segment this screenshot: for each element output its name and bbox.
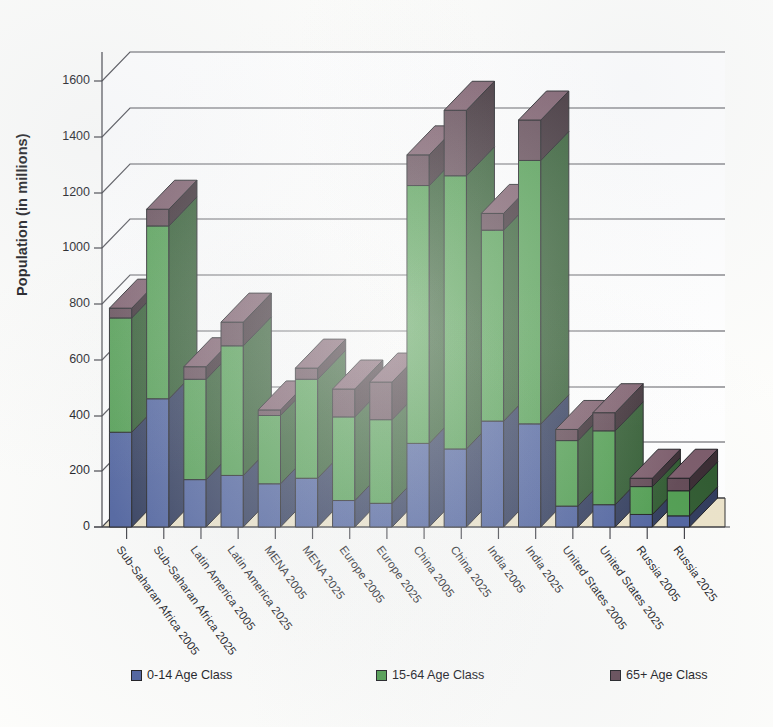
bar-segment-front — [184, 480, 206, 527]
y-axis-tick-label: 0 — [44, 519, 90, 533]
bar-segment-front — [333, 417, 355, 501]
bar-segment-front — [593, 505, 615, 527]
bar-segment-front — [295, 368, 317, 379]
bar-segment-front — [444, 449, 466, 527]
x-axis-ticks — [127, 527, 685, 539]
bar-segment-front — [109, 318, 131, 432]
legend-item: 65+ Age Class — [610, 668, 708, 682]
bar-segment-side — [541, 131, 569, 423]
legend-color-swatch — [376, 670, 387, 681]
bar-segment-front — [630, 487, 652, 515]
legend-color-swatch — [131, 670, 142, 681]
bar-segment-front — [221, 322, 243, 346]
legend-label: 65+ Age Class — [626, 668, 708, 682]
bar-segment-front — [221, 346, 243, 476]
bar-segment-front — [556, 441, 578, 507]
bar-segment-front — [630, 478, 652, 486]
legend-item: 0-14 Age Class — [131, 668, 232, 682]
y-axis-ticks — [94, 81, 102, 527]
y-axis-tick-label: 1000 — [44, 240, 90, 254]
bar-segment-front — [109, 308, 131, 318]
bar-segment-front — [370, 420, 392, 504]
bar-segment-front — [147, 209, 169, 226]
y-axis-tick-label: 600 — [44, 352, 90, 366]
bar-segment-front — [556, 506, 578, 527]
legend-color-swatch — [610, 670, 621, 681]
legend-label: 0-14 Age Class — [147, 668, 232, 682]
bar-segment-front — [258, 416, 280, 484]
bar-segment-front — [333, 501, 355, 527]
bar-segment-front — [519, 120, 541, 160]
legend-label: 15-64 Age Class — [392, 668, 484, 682]
y-axis-tick-label: 800 — [44, 296, 90, 310]
population-age-structure-chart: Population (in millions) 020040060080010… — [0, 0, 773, 727]
bar-segment-front — [407, 186, 429, 444]
y-axis-tick-label: 400 — [44, 408, 90, 422]
bar-segment-front — [407, 443, 429, 527]
bar-segment-front — [481, 230, 503, 421]
bar-segment-front — [333, 389, 355, 417]
bar-segment-front — [184, 367, 206, 380]
bar-segment-front — [667, 516, 689, 527]
bar-segment-front — [295, 379, 317, 478]
y-axis-tick-label: 1200 — [44, 185, 90, 199]
bar-segment-front — [481, 213, 503, 230]
bar-segment-front — [667, 491, 689, 516]
bar-segment-front — [184, 379, 206, 479]
y-axis-tick-label: 200 — [44, 463, 90, 477]
bar-segment-front — [407, 155, 429, 186]
legend-item: 15-64 Age Class — [376, 668, 484, 682]
bar-segment-front — [221, 475, 243, 527]
bar-segment-front — [109, 432, 131, 527]
bar-segment-front — [147, 226, 169, 399]
bar-segment-front — [444, 110, 466, 176]
chart-legend: 0-14 Age Class15-64 Age Class65+ Age Cla… — [0, 668, 773, 694]
bar-segment-front — [258, 410, 280, 416]
bar-segment-front — [147, 399, 169, 527]
bar-segment-front — [258, 484, 280, 527]
bar-segment-front — [667, 478, 689, 491]
bar-segment-front — [370, 382, 392, 420]
bar-segment-front — [444, 176, 466, 449]
bar-segment-front — [295, 478, 317, 527]
bar-segment-front — [593, 413, 615, 431]
bar-segment-front — [481, 421, 503, 527]
bar-segment-front — [519, 424, 541, 527]
bar-segment-front — [556, 429, 578, 440]
bar-segment-front — [593, 431, 615, 505]
bar-segment-front — [630, 514, 652, 527]
y-axis-title: Population (in millions) — [14, 56, 30, 296]
bar-segment-front — [370, 503, 392, 527]
y-axis-tick-label: 1400 — [44, 129, 90, 143]
bar-segment-front — [519, 160, 541, 423]
y-axis-tick-label: 1600 — [44, 73, 90, 87]
